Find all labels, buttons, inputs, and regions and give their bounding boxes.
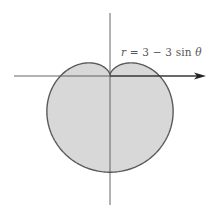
- equation-label: r = 3 − 3 sin θ: [121, 46, 202, 58]
- equation-theta: θ: [195, 46, 202, 58]
- equation-body: = 3 − 3 sin: [126, 46, 195, 58]
- polar-plot: [0, 0, 217, 213]
